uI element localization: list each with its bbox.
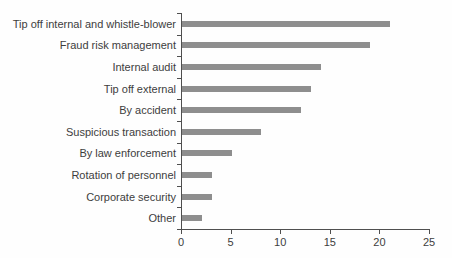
bar-chart-figure: Tip off internal and whistle-blowerFraud… [0,0,452,258]
category-label: Internal audit [112,56,176,78]
x-axis-tick [280,230,281,234]
x-axis-tick [330,230,331,234]
bar [182,129,261,135]
bar [182,86,311,92]
bar [182,21,390,27]
category-label: Tip off internal and whistle-blower [13,13,176,35]
x-axis-tick [429,230,430,234]
category-label: Fraud risk management [60,35,176,57]
x-axis-tick [379,230,380,234]
x-axis-tick [181,230,182,234]
x-axis-line [181,229,430,230]
bar [182,150,232,156]
y-axis-tick [177,186,181,187]
plot-area: Tip off internal and whistle-blowerFraud… [0,0,452,258]
x-tick-label: 25 [423,236,435,248]
bar [182,107,301,113]
y-axis-tick [177,207,181,208]
category-label: By accident [119,99,176,121]
y-axis-tick [177,78,181,79]
y-axis-tick [177,13,181,14]
y-axis-tick [177,164,181,165]
x-tick-label: 10 [274,236,286,248]
category-label: Other [148,207,176,229]
y-axis-tick [177,229,181,230]
bar [182,172,212,178]
category-label: Rotation of personnel [71,164,176,186]
category-label: Tip off external [104,78,176,100]
category-label: Suspicious transaction [66,121,176,143]
bar [182,215,202,221]
category-label: Corporate security [86,186,176,208]
category-label: By law enforcement [79,143,176,165]
y-axis-tick [177,56,181,57]
y-axis-tick [177,121,181,122]
bar [182,64,321,70]
x-tick-label: 20 [373,236,385,248]
y-axis-tick [177,35,181,36]
x-tick-label: 5 [228,236,234,248]
x-axis-tick [231,230,232,234]
x-tick-label: 15 [324,236,336,248]
y-axis-tick [177,99,181,100]
bar [182,42,370,48]
bar [182,194,212,200]
y-axis-tick [177,143,181,144]
x-tick-label: 0 [178,236,184,248]
